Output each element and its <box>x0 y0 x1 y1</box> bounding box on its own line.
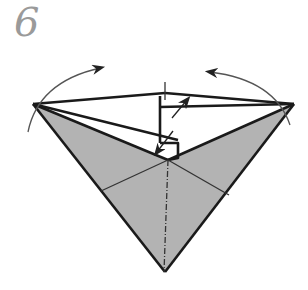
origami-diagram <box>0 0 308 290</box>
